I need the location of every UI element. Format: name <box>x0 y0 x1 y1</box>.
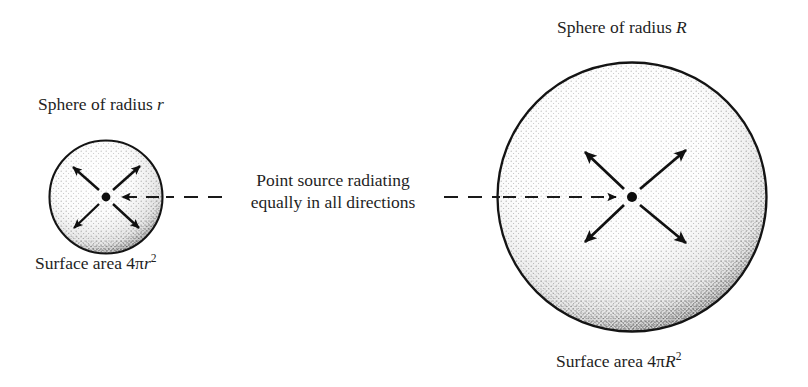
center-caption-line-2: equally in all directions <box>226 191 440 213</box>
small-sphere-pi-symbol: π <box>135 253 144 273</box>
small-sphere-title-text: Sphere of radius <box>38 94 157 114</box>
center-caption-line-1: Point source radiating <box>226 169 440 191</box>
large-sphere-pi-symbol: π <box>656 351 665 371</box>
large-sphere-area-symbol: R <box>665 351 676 371</box>
large-sphere-area-text: Surface area 4 <box>556 351 656 371</box>
small-sphere-point-source <box>102 193 111 202</box>
large-sphere-title-text: Sphere of radius <box>557 17 676 37</box>
small-sphere-area-text: Surface area 4 <box>35 253 135 273</box>
large-sphere-radius-symbol: R <box>676 17 687 37</box>
small-sphere-title: Sphere of radius r <box>38 93 164 115</box>
figure-root: Sphere of radius r Surface area 4πr2 Sph… <box>0 0 808 387</box>
small-sphere-area-symbol: r <box>144 253 151 273</box>
large-sphere-title: Sphere of radius R <box>557 16 687 38</box>
small-sphere-group <box>50 141 163 254</box>
large-sphere-point-source <box>627 192 637 202</box>
center-caption: Point source radiating equally in all di… <box>226 169 440 214</box>
small-sphere-area-exponent: 2 <box>151 252 157 264</box>
large-sphere-area-label: Surface area 4πR2 <box>556 350 681 372</box>
small-sphere-radius-symbol: r <box>157 94 164 114</box>
large-sphere-area-exponent: 2 <box>676 350 682 362</box>
small-sphere-area-label: Surface area 4πr2 <box>35 252 157 274</box>
